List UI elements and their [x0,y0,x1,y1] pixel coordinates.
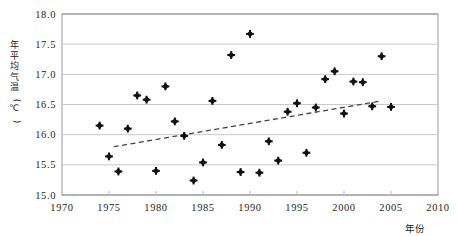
x-axis-title: 年份 [405,223,425,234]
marker-cross-v [221,141,223,149]
marker-cross-v [287,108,289,116]
x-axis-tick-label: 1985 [191,202,214,213]
y-axis-tick-label: 18.0 [35,9,56,20]
chart-canvas: 15.015.516.016.517.017.518.0 19701975198… [0,0,457,236]
marker-cross-v [315,104,317,112]
y-axis-title-char: 平 [10,51,19,61]
y-axis-tick-label: 16.0 [35,129,56,140]
x-axis-tick-label: 2005 [379,202,402,213]
marker-cross-v [277,157,279,165]
marker-cross-v [136,92,138,100]
y-axis-title-char: 温 [10,82,19,92]
marker-cross-v [296,99,298,107]
y-axis-tick-label: 15.0 [35,190,56,201]
marker-cross-v [230,51,232,59]
marker-cross-v [183,132,185,140]
marker-cross-v [343,110,345,118]
x-axis-tick-label: 1990 [238,202,261,213]
marker-cross-v [249,30,251,38]
x-axis-tick-labels: 197019751980198519901995200020052010 [50,202,449,213]
marker-cross-v [240,168,242,176]
marker-cross-v [117,168,119,176]
marker-cross-v [127,125,129,133]
marker-cross-v [146,96,148,104]
marker-cross-v [324,75,326,83]
y-axis-title-char: 气 [10,71,19,82]
marker-cross-v [155,167,157,175]
y-axis-title-char: ) [12,120,22,124]
y-axis-title-char: ℃ [9,103,19,113]
marker-cross-v [305,149,307,157]
y-axis-title-char: 均 [10,60,19,71]
y-axis-title: 年平均气温(℃) [9,39,22,123]
y-axis-tick-label: 17.5 [35,39,56,50]
marker-cross-v [174,117,176,125]
marker-cross-v [268,137,270,145]
marker-cross-v [193,177,195,185]
y-axis-tick-label: 16.5 [35,99,56,110]
y-axis-title-char: ( [12,99,22,103]
marker-cross-v [381,52,383,60]
y-axis-title-char: 年 [10,39,19,50]
y-axis-tick-label: 15.5 [35,159,56,170]
marker-cross-v [164,83,166,91]
x-axis-tick-label: 1980 [144,202,167,213]
marker-cross-v [202,159,204,167]
marker-cross-v [334,67,336,75]
marker-cross-v [352,78,354,86]
marker-cross-v [211,97,213,105]
marker-cross-v [362,78,364,86]
x-axis-tick-label: 1995 [285,202,308,213]
marker-cross-v [108,152,110,160]
marker-cross-v [258,169,260,177]
marker-cross-v [99,122,101,130]
marker-cross-v [390,103,392,111]
x-axis-tick-label: 1970 [50,202,73,213]
y-axis-tick-labels: 15.015.516.016.517.017.518.0 [35,9,56,201]
y-axis-tick-label: 17.0 [35,69,56,80]
marker-cross-v [371,102,373,110]
x-axis-tick-label: 2000 [332,202,355,213]
scatter-chart: 15.015.516.016.517.017.518.0 19701975198… [0,0,457,236]
x-axis-tick-label: 2010 [426,202,449,213]
x-axis-tick-label: 1975 [97,202,120,213]
